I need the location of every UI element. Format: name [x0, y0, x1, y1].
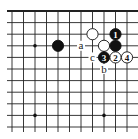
star-point-icon [102, 114, 106, 118]
star-point-icon [33, 44, 37, 48]
black-stone-icon [52, 40, 63, 51]
letter-mark-c: c [90, 51, 95, 63]
move-number: 1 [113, 30, 118, 40]
move-number: 2 [113, 53, 118, 63]
move-number: 4 [125, 53, 130, 63]
black-stone [52, 40, 63, 51]
white-stone-4: 4 [121, 52, 132, 63]
move-number: 3 [102, 53, 107, 63]
white-stone-2: 2 [110, 52, 121, 63]
white-stone [98, 40, 109, 51]
go-board-diagram: acb 1324 [0, 0, 138, 139]
white-stone [87, 29, 98, 40]
black-stone-icon [110, 40, 121, 51]
white-stone-icon [98, 40, 109, 51]
black-stone-3: 3 [98, 52, 109, 63]
black-stone [110, 40, 121, 51]
white-stone-icon [87, 29, 98, 40]
star-point-icon [33, 114, 37, 118]
letter-mark-a: a [79, 39, 84, 51]
letter-mark-b: b [101, 63, 107, 75]
black-stone-1: 1 [110, 29, 121, 40]
